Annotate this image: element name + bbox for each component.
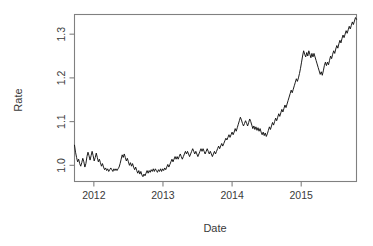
x-axis-tick-labels: 2012201320142015 [82,189,313,201]
line-chart-svg: 2012201320142015 1.01.11.21.3 Date Rate [0,0,373,246]
x-ticklabel-2014: 2014 [220,189,244,201]
y-axis-ticks [70,34,75,165]
x-ticklabel-2012: 2012 [82,189,106,201]
y-ticklabel-1.0: 1.0 [55,158,67,173]
chart-figure: 2012201320142015 1.01.11.21.3 Date Rate [0,0,373,246]
data-series-group [75,18,357,177]
x-ticklabel-2015: 2015 [290,189,314,201]
y-ticklabel-1.3: 1.3 [55,27,67,42]
x-ticklabel-2013: 2013 [151,189,175,201]
series-line-rate [75,18,357,177]
x-axis-ticks [94,182,301,187]
y-axis-title: Rate [12,88,24,111]
plot-frame [75,15,357,182]
x-axis-title: Date [203,222,226,234]
y-ticklabel-1.1: 1.1 [55,114,67,129]
y-ticklabel-1.2: 1.2 [55,70,67,85]
y-axis-tick-labels: 1.01.11.21.3 [55,27,67,173]
